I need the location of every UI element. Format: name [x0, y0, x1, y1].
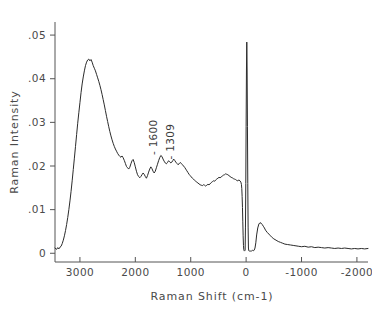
axes: [55, 22, 368, 262]
x-tick-label: -1000: [285, 266, 318, 278]
raman-spectrum-chart: 3000200010000-1000-2000 0.01.02.03.04.05…: [0, 0, 372, 317]
x-tick-label: -2000: [341, 266, 372, 278]
y-tick-label: .05: [28, 29, 46, 41]
x-tick-label: 1000: [177, 266, 205, 278]
peak-annotation-label: - 1600: [147, 119, 159, 155]
y-axis-ticks: [50, 35, 55, 253]
x-axis-title: Raman Shift (cm-1): [150, 290, 273, 303]
spectrum-line: [55, 42, 368, 251]
x-tick-label: 2000: [121, 266, 149, 278]
y-tick-label: .02: [28, 160, 46, 172]
y-tick-label: .01: [28, 203, 46, 215]
y-tick-label: .04: [28, 72, 46, 84]
peak-annotation-label: - 1309: [164, 124, 176, 160]
y-tick-label: 0: [39, 247, 46, 259]
x-tick-label: 3000: [66, 266, 94, 278]
y-axis-tick-labels: 0.01.02.03.04.05: [28, 29, 46, 259]
spectrum-trace-group: [55, 42, 368, 251]
y-tick-label: .03: [28, 116, 46, 128]
y-axis-title: Raman Intensity: [8, 90, 21, 193]
x-axis-ticks: [80, 257, 357, 262]
x-tick-label: 0: [243, 266, 250, 278]
raman-spectrum-figure: 3000200010000-1000-2000 0.01.02.03.04.05…: [0, 0, 372, 317]
peak-annotations: - 1600- 1309: [147, 119, 175, 159]
x-axis-tick-labels: 3000200010000-1000-2000: [66, 266, 372, 278]
